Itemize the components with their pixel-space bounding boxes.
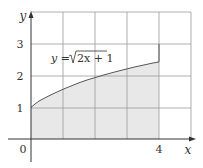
equation-prefix: y =	[50, 52, 70, 65]
y-tick-3: 3	[17, 38, 24, 51]
y-tick-2: 2	[17, 70, 24, 83]
equation-label: y = 2x + 1	[50, 51, 113, 65]
x-tick-4: 4	[156, 143, 163, 156]
equation-radicand: 2x + 1	[77, 52, 113, 65]
y-axis-label: y	[19, 9, 27, 23]
y-tick-1: 1	[17, 102, 24, 115]
x-axis-label: x	[185, 143, 192, 157]
function-area-chart: 3 2 1 0 4 x y y = 2x + 1	[0, 0, 203, 168]
x-tick-origin: 0	[20, 143, 27, 156]
x-axis-arrow-icon	[189, 137, 196, 142]
